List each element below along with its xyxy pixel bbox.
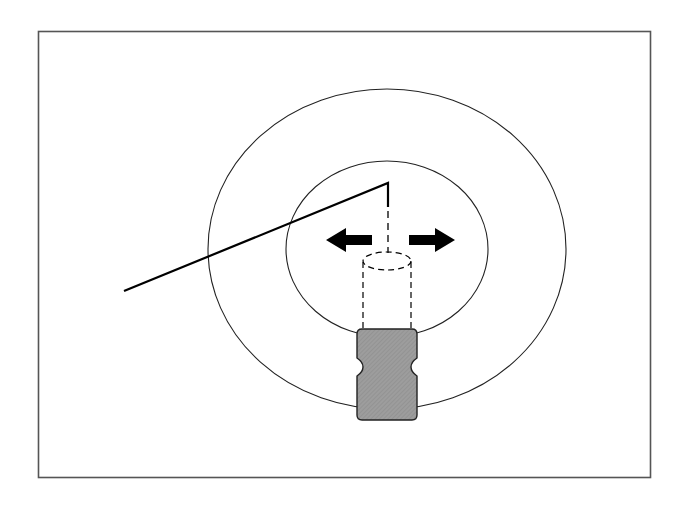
hidden-cylinder: [363, 252, 411, 330]
right-arrow-icon: [409, 228, 455, 252]
frame: [39, 32, 651, 478]
clamp-block: [357, 329, 417, 420]
left-arrow-icon: [326, 228, 372, 252]
diagram-canvas: [0, 0, 688, 505]
